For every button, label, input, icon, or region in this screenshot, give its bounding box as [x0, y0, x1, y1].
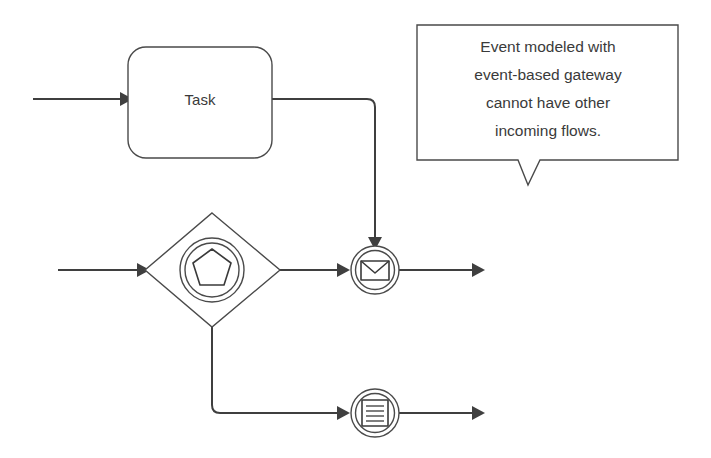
callout-line-4: incoming flows.	[495, 122, 601, 139]
task-node[interactable]: Task	[128, 47, 272, 158]
flow-task-to-message-event	[272, 99, 382, 250]
flow-gateway-to-message-event	[280, 263, 350, 277]
callout-line-1: Event modeled with	[480, 38, 615, 55]
annotation-callout: Event modeled with event-based gateway c…	[417, 25, 678, 185]
conditional-event-outer-circle	[351, 389, 399, 437]
incoming-flow-to-gateway	[58, 263, 150, 277]
bpmn-diagram-canvas: Task	[0, 0, 711, 458]
callout-line-3: cannot have other	[486, 94, 610, 111]
intermediate-message-event-node[interactable]	[351, 246, 399, 294]
outgoing-flow-from-message-event	[399, 263, 485, 277]
callout-line-2: event-based gateway	[474, 66, 622, 83]
intermediate-conditional-event-node[interactable]	[351, 389, 399, 437]
event-based-gateway-node[interactable]	[145, 213, 280, 327]
task-label: Task	[185, 91, 216, 108]
outgoing-flow-from-conditional-event	[399, 406, 485, 420]
flow-gateway-to-conditional-event	[212, 327, 350, 420]
message-event-outer-circle	[351, 246, 399, 294]
incoming-flow-to-task	[33, 92, 133, 106]
